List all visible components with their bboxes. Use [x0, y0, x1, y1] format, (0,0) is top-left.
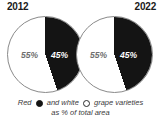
pie-chart-2012: 55% 45%: [7, 16, 84, 93]
legend-red-label: Red: [18, 98, 32, 107]
grape-variety-pie-figure: 2012 2022 55% 45% 55% 45% Red and white …: [0, 0, 161, 125]
pie-year-label-2022: 2022: [135, 1, 156, 13]
legend-varieties-label: grape varieties: [94, 98, 143, 107]
pie-year-label-2012: 2012: [7, 1, 28, 13]
chart-legend: Red and white grape varieties as % of to…: [0, 98, 161, 118]
pie-slice-label-red-2022: 45%: [120, 50, 137, 60]
pie-slice-label-white-2012: 55%: [21, 50, 38, 60]
pie-outline-2012: [8, 17, 83, 92]
legend-line-1: Red and white grape varieties: [0, 98, 161, 108]
pie-slice-label-white-2022: 55%: [90, 50, 107, 60]
hollow-circle-icon: [83, 100, 90, 107]
legend-line-2: as % of total area: [0, 108, 161, 118]
pie-outline-2022: [77, 17, 152, 92]
legend-white-label: and white: [47, 98, 79, 107]
pie-chart-2022: 55% 45%: [76, 16, 153, 93]
filled-circle-icon: [36, 100, 43, 107]
pie-slice-label-red-2012: 45%: [51, 50, 68, 60]
